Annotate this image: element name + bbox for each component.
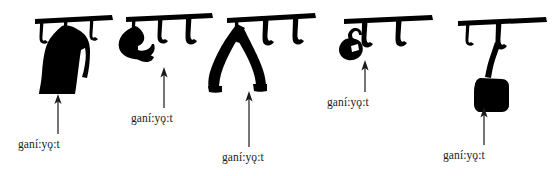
pointer-arrow-3 [245, 91, 252, 147]
pouch-body-icon [339, 38, 363, 60]
gloss-label-1: ganí:yǫ:t [18, 139, 60, 151]
jacket-right-fold-icon [235, 27, 266, 87]
hook-icon [263, 19, 274, 45]
hook-icon [466, 24, 474, 46]
gloss-label-5: ganí:yǫ:t [443, 150, 485, 162]
pointer-arrow-2 [160, 67, 167, 108]
hook-icon [90, 19, 98, 41]
bag-strap-icon [485, 42, 501, 78]
small-pouch-shape [339, 28, 363, 60]
gloss-label-3: ganí:yǫ:t [222, 152, 264, 164]
hook-icon [362, 22, 373, 47]
hook-icon [293, 16, 304, 44]
gloss-label-2: ganí:yǫ:t [131, 113, 173, 125]
hook-icon [40, 22, 48, 44]
jacket-hem-left-icon [208, 86, 222, 93]
hook-icon [186, 17, 197, 44]
rail-with-hooks-5 [458, 17, 547, 49]
hanging-objects-illustration: ganí:yǫ:t ganí:yǫ:t [0, 0, 552, 176]
shoulder-bag-shape [474, 42, 509, 112]
jacket-hem-right-icon [253, 84, 267, 92]
panel-4: ganí:yǫ:t [320, 0, 450, 176]
hook-icon [158, 19, 168, 44]
panel-5: ganí:yǫ:t [440, 0, 552, 176]
long-coat-shape [39, 25, 90, 94]
rail-bar-icon [126, 13, 213, 22]
rail-bar-icon [35, 15, 113, 24]
pointer-arrow-4 [361, 60, 368, 92]
pointer-arrow-5 [480, 107, 487, 145]
rail-bar-icon [344, 15, 433, 24]
rail-bar-icon [458, 17, 547, 26]
draped-jacket-shape [208, 24, 267, 93]
hook-icon [396, 21, 407, 46]
pointer-arrow-1 [54, 94, 61, 134]
rail-bar-icon [227, 13, 316, 23]
bag-body-icon [475, 78, 509, 112]
gloss-label-4: ganí:yǫ:t [327, 97, 369, 109]
cap-shape [119, 26, 155, 62]
